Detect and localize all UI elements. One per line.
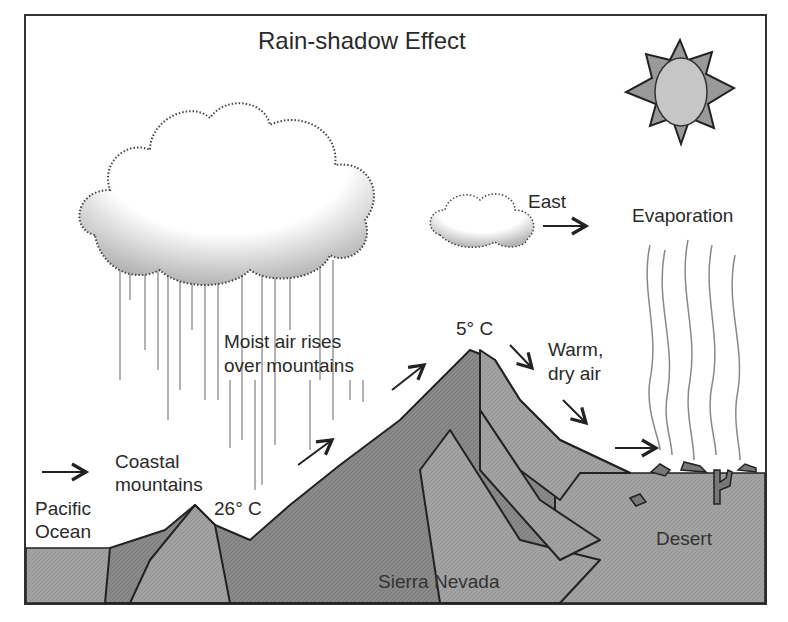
small-cloud <box>430 194 533 247</box>
label-evaporation: Evaporation <box>632 205 733 227</box>
label-sierra-nevada: Sierra Nevada <box>378 571 499 593</box>
label-warm-1: Warm, <box>548 339 603 361</box>
label-pacific-2: Ocean <box>35 521 91 543</box>
label-coastal-1: Coastal <box>115 451 179 473</box>
label-moist-air-2: over mountains <box>224 355 354 377</box>
label-desert: Desert <box>656 528 712 550</box>
label-peak-temp: 5° C <box>456 318 493 340</box>
label-coast-temp: 26° C <box>214 498 262 520</box>
label-coastal-2: mountains <box>115 474 203 496</box>
label-pacific-1: Pacific <box>35 498 91 520</box>
label-east: East <box>528 191 566 213</box>
diagram-title: Rain-shadow Effect <box>258 30 466 52</box>
label-moist-air-1: Moist air rises <box>224 331 341 353</box>
label-warm-2: dry air <box>548 363 601 385</box>
rain-cloud <box>79 103 374 285</box>
evaporation-lines <box>647 240 740 460</box>
sun-icon <box>626 40 734 144</box>
